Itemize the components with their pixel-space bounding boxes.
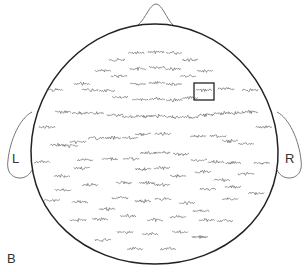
- eeg-trace: [222, 198, 238, 200]
- eeg-trace: [112, 196, 128, 199]
- eeg-trace: [120, 214, 136, 217]
- left-ear-label: L: [12, 151, 19, 166]
- eeg-trace: [166, 51, 182, 54]
- eeg-trace: [170, 174, 186, 177]
- eeg-trace: [148, 51, 164, 54]
- eeg-trace: [39, 126, 55, 129]
- eeg-trace: [172, 231, 188, 234]
- eeg-trace: [74, 167, 90, 170]
- eeg-trace: [135, 168, 151, 171]
- head-diagram: [0, 0, 305, 272]
- eeg-trace: [136, 115, 152, 118]
- eeg-trace: [147, 218, 163, 221]
- eeg-trace: [74, 82, 90, 85]
- eeg-trace: [130, 83, 146, 85]
- eeg-trace: [192, 236, 208, 239]
- eeg-trace: [218, 88, 234, 90]
- eeg-trace: [149, 66, 165, 69]
- eeg-trace: [155, 132, 171, 135]
- eeg-trace: [160, 247, 176, 250]
- eeg-trace: [107, 114, 123, 117]
- eeg-trace: [217, 219, 233, 222]
- eeg-trace: [242, 89, 258, 92]
- eeg-trace: [182, 115, 198, 118]
- eeg-trace: [154, 151, 170, 154]
- head-outline: [31, 24, 278, 264]
- eeg-trace: [109, 58, 125, 61]
- eeg-trace: [166, 83, 182, 86]
- eeg-trace: [130, 67, 146, 70]
- eeg-trace: [99, 89, 115, 92]
- eeg-trace: [166, 98, 182, 101]
- eeg-trace: [122, 136, 138, 139]
- eeg-trace: [70, 141, 86, 144]
- left-ear-outline: [8, 112, 32, 178]
- eeg-trace: [132, 99, 148, 101]
- eeg-trace: [82, 89, 98, 92]
- eeg-trace: [128, 52, 144, 55]
- selected-electrode-box[interactable]: [194, 83, 214, 100]
- nose-outline: [138, 4, 173, 25]
- eeg-trace: [142, 232, 158, 235]
- eeg-trace: [214, 179, 230, 182]
- eeg-trace: [191, 159, 207, 161]
- eeg-trace: [112, 96, 128, 98]
- eeg-trace: [135, 133, 151, 136]
- eeg-trace: [182, 58, 198, 61]
- eeg-trace: [122, 115, 138, 118]
- panel-label: B: [7, 251, 16, 266]
- eeg-trace: [200, 188, 216, 190]
- eeg-trace: [139, 181, 155, 184]
- eeg-trace: [99, 207, 115, 210]
- eeg-trace: [140, 152, 156, 155]
- eeg-head-topography: L R B: [0, 0, 305, 272]
- eeg-trace: [34, 161, 50, 163]
- electrode-traces: [34, 51, 272, 250]
- eeg-trace: [222, 139, 238, 143]
- eeg-trace: [154, 166, 170, 169]
- eeg-trace: [179, 201, 195, 205]
- eeg-trace: [47, 88, 63, 91]
- eeg-trace: [154, 183, 170, 186]
- eeg-trace: [225, 161, 241, 164]
- eeg-trace: [82, 183, 98, 186]
- eeg-trace: [116, 181, 132, 184]
- eeg-trace: [210, 135, 226, 138]
- eeg-trace: [197, 70, 213, 73]
- eeg-trace: [135, 199, 151, 202]
- right-ear-outline: [277, 112, 301, 178]
- eeg-trace: [150, 114, 166, 118]
- eeg-trace: [123, 158, 139, 161]
- eeg-trace: [117, 231, 133, 233]
- eeg-trace: [111, 75, 127, 78]
- eeg-trace: [149, 81, 165, 84]
- eeg-trace: [165, 67, 181, 70]
- eeg-trace: [248, 192, 264, 195]
- eeg-trace: [228, 112, 244, 115]
- eeg-trace: [95, 69, 111, 72]
- eeg-trace: [149, 97, 165, 99]
- eeg-trace: [190, 135, 206, 137]
- eeg-trace: [127, 247, 143, 250]
- eeg-trace: [199, 218, 215, 221]
- eeg-trace: [88, 112, 104, 115]
- eeg-trace: [166, 116, 182, 119]
- eeg-trace: [238, 143, 254, 145]
- right-ear-label: R: [285, 151, 294, 166]
- eeg-trace: [155, 198, 171, 201]
- eeg-trace: [105, 136, 121, 139]
- eeg-trace: [72, 112, 88, 115]
- eeg-trace: [225, 185, 241, 188]
- eeg-trace: [44, 199, 60, 201]
- eeg-trace: [182, 96, 198, 99]
- eeg-trace: [55, 189, 71, 192]
- eeg-trace: [92, 218, 108, 221]
- eeg-trace: [198, 114, 214, 117]
- eeg-trace: [238, 172, 254, 175]
- eeg-trace: [95, 238, 111, 241]
- eeg-trace: [77, 159, 93, 161]
- eeg-trace: [195, 170, 211, 173]
- eeg-trace: [72, 201, 88, 203]
- eeg-trace: [54, 174, 70, 177]
- eeg-trace: [193, 210, 209, 212]
